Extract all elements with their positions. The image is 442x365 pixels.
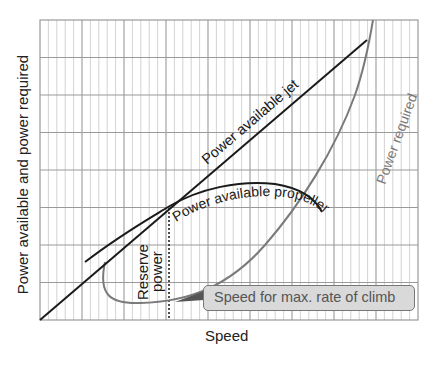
y-axis-label: Power available and power required xyxy=(14,25,31,325)
power-available-jet-line xyxy=(40,40,367,320)
power-required-label: Power required xyxy=(373,91,421,186)
grid xyxy=(40,20,418,320)
x-axis-label: Speed xyxy=(205,327,248,344)
reserve-label-line2: power xyxy=(148,251,165,292)
max-climb-speed-callout: Speed for max. rate of climb xyxy=(203,285,415,311)
